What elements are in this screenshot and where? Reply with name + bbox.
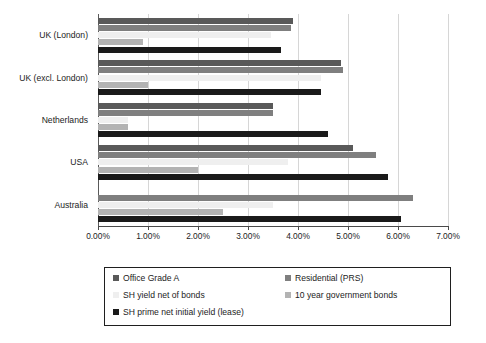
legend-item[interactable]: Office Grade A [113, 273, 179, 283]
chart-page: UK (London)UK (excl. London)NetherlandsU… [0, 0, 486, 343]
bar [98, 216, 401, 222]
bar [98, 167, 198, 173]
x-tick-mark [98, 226, 99, 230]
x-tick-label: 6.00% [386, 231, 410, 241]
bar [98, 195, 413, 201]
legend-swatch-icon [285, 275, 291, 281]
legend-label: 10 year government bonds [295, 290, 397, 300]
legend-swatch-icon [113, 275, 119, 281]
bar-group [98, 103, 448, 138]
bar-group [98, 60, 448, 95]
legend-swatch-icon [113, 292, 119, 298]
bar [98, 75, 321, 81]
bar-group [98, 145, 448, 180]
bar [98, 131, 328, 137]
legend-label: Office Grade A [123, 273, 179, 283]
x-tick-mark [248, 226, 249, 230]
bar [98, 145, 353, 151]
x-tick-label: 1.00% [136, 231, 160, 241]
x-tick-mark [148, 226, 149, 230]
bar [98, 32, 271, 38]
bar [98, 159, 288, 165]
category-label-uk-excl-london: UK (excl. London) [19, 73, 88, 83]
bar [98, 82, 148, 88]
bar [98, 152, 376, 158]
figure-caption [14, 330, 474, 341]
x-tick-mark [298, 226, 299, 230]
bar [98, 202, 273, 208]
bar [98, 25, 291, 31]
bar-group [98, 187, 448, 222]
bar [98, 103, 273, 109]
bar [98, 89, 321, 95]
gridline-7.00% [448, 14, 449, 226]
bar [98, 60, 341, 66]
legend-label: SH prime net initial yield (lease) [123, 307, 244, 317]
x-tick-mark [348, 226, 349, 230]
x-tick-mark [448, 226, 449, 230]
x-tick-label: 7.00% [436, 231, 460, 241]
x-tick-label: 4.00% [286, 231, 310, 241]
x-tick-mark [198, 226, 199, 230]
legend-item[interactable]: SH yield net of bonds [113, 290, 205, 300]
legend-swatch-icon [113, 309, 119, 315]
x-axis-line [98, 226, 448, 227]
bar-group [98, 18, 448, 53]
x-tick-label: 5.00% [336, 231, 360, 241]
bar [98, 39, 143, 45]
bar [98, 174, 388, 180]
category-label-uk-london: UK (London) [39, 30, 88, 40]
category-label-usa: USA [70, 157, 88, 167]
legend-item[interactable]: 10 year government bonds [285, 290, 397, 300]
bar [98, 209, 223, 215]
legend-item[interactable]: SH prime net initial yield (lease) [113, 307, 244, 317]
category-axis: UK (London)UK (excl. London)NetherlandsU… [0, 14, 92, 226]
bar [98, 117, 128, 123]
x-tick-label: 3.00% [236, 231, 260, 241]
category-label-australia: Australia [55, 200, 88, 210]
x-tick-label: 2.00% [186, 231, 210, 241]
plot-area [98, 14, 448, 226]
legend-label: Residential (PRS) [295, 273, 363, 283]
bar [98, 18, 293, 24]
x-tick-mark [398, 226, 399, 230]
bar [98, 124, 128, 130]
bar [98, 47, 281, 53]
bar [98, 67, 343, 73]
legend-swatch-icon [285, 292, 291, 298]
legend-label: SH yield net of bonds [123, 290, 205, 300]
x-tick-label: 0.00% [86, 231, 110, 241]
category-label-netherlands: Netherlands [42, 115, 88, 125]
legend-item[interactable]: Residential (PRS) [285, 273, 363, 283]
bar [98, 110, 273, 116]
bar-chart: UK (London)UK (excl. London)NetherlandsU… [0, 0, 486, 252]
chart-legend: Office Grade AResidential (PRS)SH yield … [104, 267, 451, 326]
